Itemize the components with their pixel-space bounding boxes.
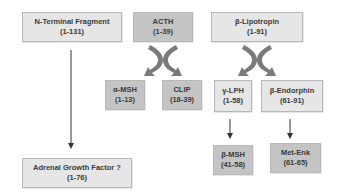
node-label: Adrenal Growth Factor ? (33, 163, 121, 173)
node-alpha-msh: α-MSH (1-13) (105, 80, 145, 110)
node-label: N-Terminal Fragment (35, 17, 110, 27)
node-label: CLIP (173, 85, 190, 95)
node-label: β-Endorphin (270, 86, 315, 96)
node-range: (61-65) (283, 158, 307, 168)
node-gamma-lph: γ-LPH (1-58) (214, 80, 252, 112)
node-clip: CLIP (18-39) (162, 80, 202, 110)
node-range: (1-58) (223, 96, 243, 106)
node-range: (1-91) (247, 27, 267, 37)
node-beta-msh: β-MSH (41-58) (213, 145, 253, 175)
node-range: (41-58) (221, 160, 245, 170)
node-n-terminal-fragment: N-Terminal Fragment (1-131) (22, 12, 122, 42)
split-arrow-icon-acth (144, 45, 182, 76)
node-range: (18-39) (170, 95, 194, 105)
node-acth: ACTH (1-39) (133, 12, 193, 42)
node-label: β-Lipotropin (235, 17, 279, 27)
node-beta-lipotropin: β-Lipotropin (1-91) (211, 12, 303, 42)
node-label: Met-Enk (281, 148, 310, 158)
node-range: (1-76) (67, 173, 87, 183)
node-label: β-MSH (221, 150, 245, 160)
node-range: (1-131) (60, 27, 84, 37)
split-arrow-icon-lipotropin (238, 45, 276, 76)
node-met-enk: Met-Enk (61-65) (270, 143, 321, 173)
node-range: (61-91) (280, 96, 304, 106)
node-adrenal-growth-factor: Adrenal Growth Factor ? (1-76) (22, 158, 132, 188)
node-beta-endorphin: β-Endorphin (61-91) (261, 80, 323, 112)
node-label: α-MSH (113, 85, 137, 95)
node-range: (1-39) (153, 27, 173, 37)
node-range: (1-13) (115, 95, 135, 105)
node-label: γ-LPH (222, 86, 244, 96)
node-label: ACTH (153, 17, 174, 27)
